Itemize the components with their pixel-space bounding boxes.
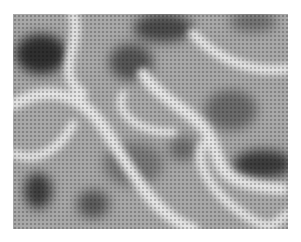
noise-texture-image xyxy=(13,14,288,229)
texture-canvas xyxy=(13,14,288,229)
